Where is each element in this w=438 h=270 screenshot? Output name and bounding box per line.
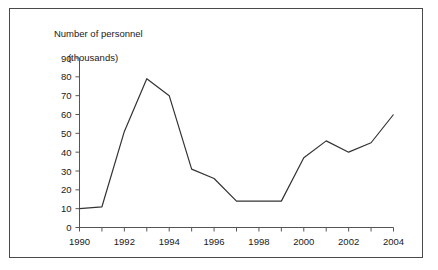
y-axis-ticks (76, 58, 80, 228)
y-axis-tick-label: 0 (66, 222, 71, 233)
y-axis-tick-label: 50 (61, 128, 72, 139)
x-axis-tick-labels: 19901992199419961998200020022004 (69, 236, 404, 247)
y-axis-tick-label: 40 (61, 147, 72, 158)
x-axis-tick-label: 1996 (204, 236, 225, 247)
x-axis-tick-label: 1994 (159, 236, 180, 247)
x-axis-tick-label: 1998 (248, 236, 269, 247)
y-axis-tick-label: 70 (61, 90, 72, 101)
x-axis-tick-label: 2002 (338, 236, 359, 247)
x-axis: 19901992199419961998200020022004 (69, 228, 404, 247)
y-axis-tick-label: 20 (61, 184, 72, 195)
x-axis-tick-label: 1992 (114, 236, 135, 247)
y-axis-tick-label: 10 (61, 203, 72, 214)
x-axis-tick-label: 2004 (383, 236, 404, 247)
y-axis-tick-label: 90 (61, 53, 72, 64)
data-series-line (80, 79, 394, 209)
x-axis-ticks (80, 228, 394, 232)
y-axis-tick-labels: 0102030405060708090 (61, 53, 72, 234)
x-axis-tick-label: 1990 (69, 236, 90, 247)
y-axis: 0102030405060708090 (61, 53, 80, 234)
y-axis-tick-label: 80 (61, 71, 72, 82)
chart-figure: Number of personnel (thousands) 01020304… (0, 0, 438, 270)
line-chart-plot: 0102030405060708090 19901992199419961998… (0, 0, 438, 270)
x-axis-tick-label: 2000 (293, 236, 314, 247)
y-axis-tick-label: 30 (61, 166, 72, 177)
y-axis-tick-label: 60 (61, 109, 72, 120)
